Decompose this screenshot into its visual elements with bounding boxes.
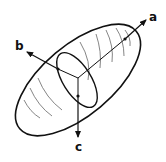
ellipsoid-outline [0,4,159,155]
cross-section-ellipse [49,46,106,113]
axis-c-label: c [75,140,82,154]
axis-a: a [78,10,157,78]
axis-a-label: a [149,10,157,24]
axis-c: c [75,78,82,154]
axis-b: b [15,39,78,78]
ellipsoid-diagram: a b c [0,0,166,162]
axis-b-label: b [15,39,24,53]
contour-lines [24,28,130,118]
